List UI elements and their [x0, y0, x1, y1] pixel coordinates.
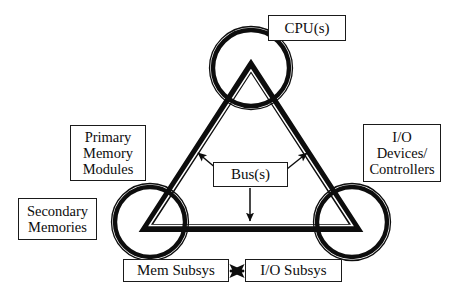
primary-memory-line2: Memory	[83, 145, 133, 161]
secondary-memory-line2: Memories	[28, 219, 87, 235]
node-label-mem-subsys: Mem Subsys	[123, 259, 229, 282]
io-devices-line1: I/O	[392, 129, 411, 145]
node-label-bus: Bus(s)	[213, 162, 288, 187]
io-devices-line2: Devices/	[377, 145, 428, 161]
bus-label: Bus(s)	[231, 166, 270, 183]
node-label-cpu: CPU(s)	[268, 15, 346, 41]
io-subsys-label: I/O Subsys	[260, 262, 326, 279]
node-label-io-devices: I/O Devices/ Controllers	[363, 124, 441, 182]
mem-subsys-label: Mem Subsys	[137, 262, 215, 279]
primary-memory-line3: Modules	[83, 161, 134, 177]
node-label-secondary-memories: Secondary Memories	[18, 198, 97, 240]
io-devices-line3: Controllers	[369, 161, 434, 177]
secondary-memory-line1: Secondary	[27, 203, 88, 219]
cpu-label: CPU(s)	[284, 20, 329, 37]
node-label-io-subsys: I/O Subsys	[245, 259, 342, 282]
node-label-primary-memory: Primary Memory Modules	[70, 125, 146, 181]
diagram-canvas: CPU(s) Primary Memory Modules Secondary …	[0, 0, 455, 301]
bus-arrow-right	[287, 153, 307, 169]
primary-memory-line1: Primary	[85, 129, 132, 145]
